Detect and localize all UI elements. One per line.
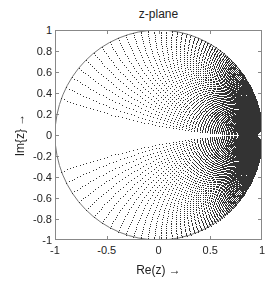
x-tick-label: -1 bbox=[35, 244, 75, 256]
x-tick-label: 0 bbox=[139, 244, 179, 256]
y-axis-label: Im{z} → bbox=[13, 114, 27, 157]
x-tick-label: 1 bbox=[242, 244, 278, 256]
y-tick-label: -0.6 bbox=[12, 192, 52, 204]
plot-area bbox=[55, 30, 262, 240]
x-axis-label: Re(z) → bbox=[55, 263, 262, 277]
z-plane-plot-canvas bbox=[56, 31, 261, 239]
y-tick-label: 0.8 bbox=[12, 45, 52, 57]
x-tick-label: -0.5 bbox=[87, 244, 127, 256]
x-tick-label: 0.5 bbox=[190, 244, 230, 256]
y-tick-label: 1 bbox=[12, 24, 52, 36]
y-tick-label: -0.4 bbox=[12, 171, 52, 183]
y-tick-label: 0.4 bbox=[12, 87, 52, 99]
chart-title: z-plane bbox=[55, 7, 262, 21]
y-tick-label: -0.8 bbox=[12, 213, 52, 225]
y-tick-label: 0.6 bbox=[12, 66, 52, 78]
